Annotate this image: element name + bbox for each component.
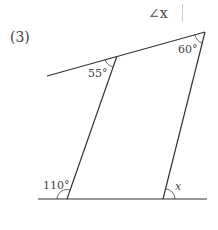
angle-arc-x [166, 189, 175, 199]
angle-label-110: 110° [43, 180, 70, 191]
angle-label-60: 60° [178, 44, 198, 55]
geometry-figure [0, 0, 218, 230]
angle-label-x: x [175, 181, 181, 192]
angle-label-55: 55° [88, 68, 108, 79]
angle-arc-60 [195, 35, 202, 43]
angle-arc-55 [105, 60, 113, 68]
right-side-line [163, 32, 205, 199]
